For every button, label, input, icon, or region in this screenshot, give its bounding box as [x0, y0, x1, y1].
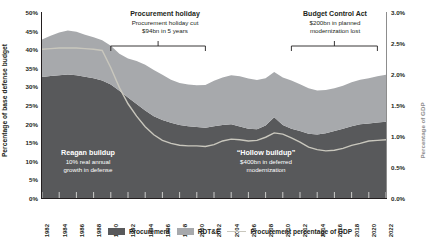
y-tick-left: 25% — [26, 102, 38, 109]
annotation-headline: Budget Control Act — [283, 10, 387, 19]
legend-label-procurement: Procurement — [129, 228, 170, 235]
callout-reagan-buildup: Reagan buildup 10% real annual growth in… — [42, 148, 134, 174]
annotation-line-1: $200bn in planned — [283, 19, 387, 27]
x-tick-label: 2020 — [371, 224, 377, 237]
y-tick-left: 10% — [26, 157, 38, 164]
y-tick-right: 1.0% — [391, 133, 405, 140]
callout-line-1: 10% real annual — [42, 158, 134, 166]
annotation-budget-control-act: Budget Control Act $200bn in planned mod… — [283, 10, 387, 35]
y-axis-right-title-text: Percentage of GDP — [419, 102, 426, 158]
y-axis-right-ticks: 0.0%0.5%1.0%1.5%2.0%2.5%3.0% — [388, 0, 418, 200]
y-tick-left: 50% — [26, 9, 38, 16]
legend-swatch-procurement — [108, 228, 125, 235]
callout-hollow-buildup: “Hollow buildup” $400bn in deferred mode… — [212, 148, 320, 174]
y-tick-left: 15% — [26, 139, 38, 146]
y-axis-left-title-text: Percentage of base defense budget — [2, 43, 9, 156]
callout-line-2: growth in defense — [42, 166, 134, 174]
y-tick-left: 30% — [26, 83, 38, 90]
legend-item-procurement: Procurement — [108, 228, 170, 235]
x-tick-label: 1984 — [62, 224, 68, 237]
callout-line-1: $400bn in deferred — [212, 158, 320, 166]
x-tick-label: 1982 — [44, 224, 50, 237]
annotation-procurement-holiday: Procurement holiday Procurement holiday … — [105, 10, 225, 35]
y-tick-right: 1.5% — [391, 102, 405, 109]
callout-headline: “Hollow buildup” — [212, 148, 320, 158]
legend-item-rdte: RDT&E — [177, 228, 221, 235]
legend-item-gdp-line: Procurement percentage of GDP — [227, 228, 352, 235]
y-tick-right: 3.0% — [391, 9, 405, 16]
legend-label-rdte: RDT&E — [198, 228, 221, 235]
y-tick-left: 0% — [29, 195, 38, 202]
y-tick-right: 0.5% — [391, 164, 405, 171]
y-tick-left: 5% — [29, 176, 38, 183]
x-tick-label: 1988 — [96, 224, 102, 237]
annotation-line-2: $94bn in 5 years — [105, 27, 225, 35]
chart-legend: Procurement RDT&E Procurement percentage… — [108, 228, 352, 235]
x-tick-label: 1986 — [79, 224, 85, 237]
x-axis-labels: 1982198419861988199019921994199619982000… — [42, 200, 386, 230]
y-axis-left-ticks: 0%5%10%15%20%25%30%35%40%45%50% — [14, 0, 40, 200]
x-tick-label: 2022 — [388, 224, 394, 237]
chart-root: Percentage of base defense budget Percen… — [0, 0, 428, 247]
y-tick-right: 2.0% — [391, 71, 405, 78]
annotation-headline: Procurement holiday — [105, 10, 225, 19]
y-tick-right: 0.0% — [391, 195, 405, 202]
callout-headline: Reagan buildup — [42, 148, 134, 158]
y-tick-left: 45% — [26, 27, 38, 34]
x-axis-tick-marks — [42, 192, 386, 198]
y-tick-left: 20% — [26, 120, 38, 127]
y-axis-left-title: Percentage of base defense budget — [0, 0, 12, 200]
y-axis-right-spine — [386, 12, 387, 198]
callout-line-2: modernization — [212, 166, 320, 174]
y-tick-left: 35% — [26, 64, 38, 71]
legend-label-gdp-line: Procurement percentage of GDP — [250, 228, 352, 235]
annotation-line-2: modernization lost — [283, 27, 387, 35]
annotation-line-1: Procurement holiday cut — [105, 19, 225, 27]
x-axis-baseline — [41, 198, 387, 199]
y-tick-left: 40% — [26, 46, 38, 53]
legend-swatch-rdte — [177, 228, 194, 235]
y-tick-right: 2.5% — [391, 40, 405, 47]
x-tick-label: 2018 — [354, 224, 360, 237]
legend-swatch-gdp-line — [227, 231, 246, 232]
